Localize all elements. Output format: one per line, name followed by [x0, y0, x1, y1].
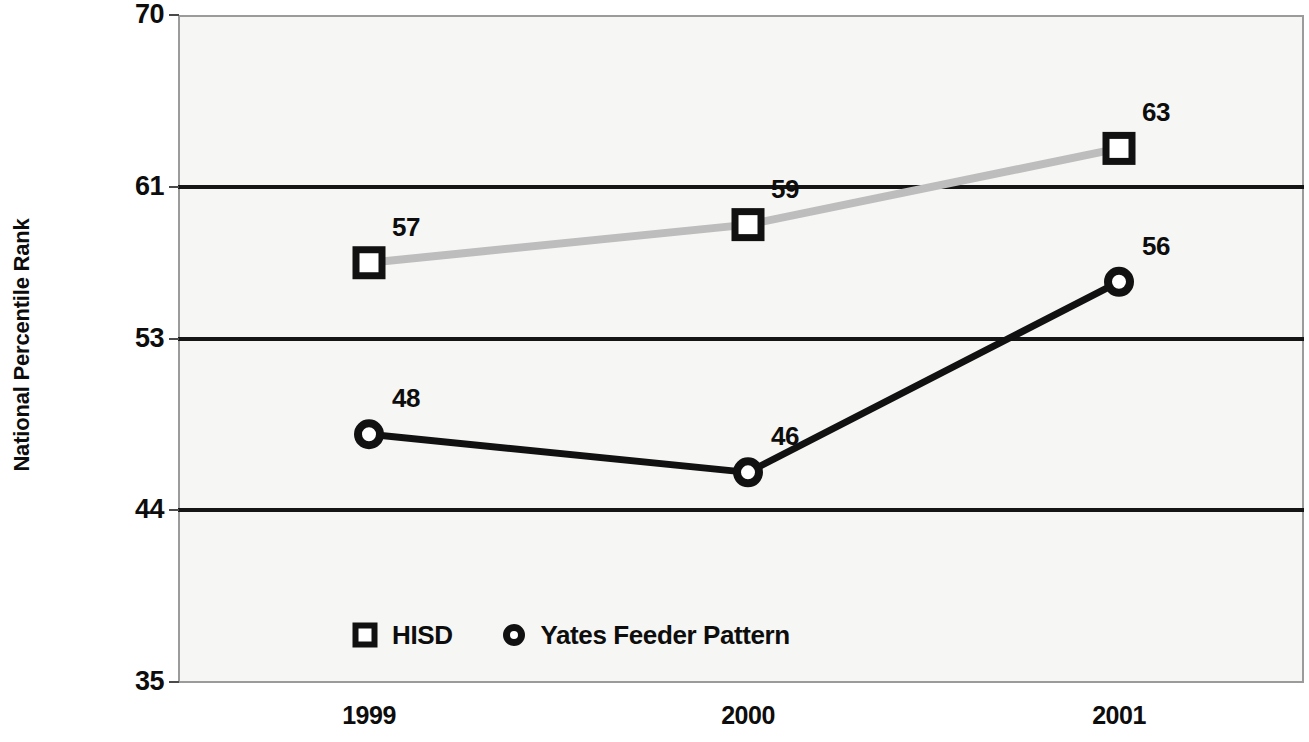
legend-item-hisd[interactable]: HISD — [352, 622, 453, 648]
x-axis-tick-label: 2000 — [668, 703, 828, 728]
square-marker-icon — [352, 622, 378, 648]
legend-item-yates[interactable]: Yates Feeder Pattern — [501, 622, 790, 648]
data-point-marker[interactable] — [1108, 271, 1130, 293]
data-point-marker[interactable] — [735, 212, 761, 238]
circle-marker-icon — [501, 622, 527, 648]
data-point-marker[interactable] — [358, 423, 380, 445]
x-axis-tick-label: 1999 — [289, 703, 449, 728]
data-point-label: 59 — [771, 176, 799, 202]
series-line-yates — [369, 282, 1119, 473]
legend-label-yates: Yates Feeder Pattern — [541, 622, 790, 648]
line-chart: National Percentile Rank 7061534435 5759… — [0, 0, 1309, 742]
data-point-label: 57 — [392, 214, 420, 240]
data-point-marker[interactable] — [737, 461, 759, 483]
data-point-marker[interactable] — [1106, 135, 1132, 161]
legend-label-hisd: HISD — [392, 622, 453, 648]
chart-legend: HISD Yates Feeder Pattern — [352, 622, 790, 648]
data-point-marker[interactable] — [356, 250, 382, 276]
data-point-label: 56 — [1142, 233, 1170, 259]
data-point-label: 48 — [392, 385, 420, 411]
data-point-label: 63 — [1142, 99, 1170, 125]
data-point-label: 46 — [771, 423, 799, 449]
series-line-hisd — [369, 148, 1119, 262]
x-axis-tick-label: 2001 — [1039, 703, 1199, 728]
